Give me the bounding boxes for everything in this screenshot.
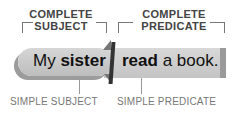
simple-predicate-label: SIMPLE PREDICATE: [117, 96, 216, 107]
predicate-plain: a book.: [158, 51, 219, 70]
complete-subject-line2: SUBJECT: [26, 20, 96, 32]
complete-subject-bracket-left: [22, 22, 33, 33]
simple-subject-label: SIMPLE SUBJECT: [10, 96, 98, 107]
complete-predicate-label: COMPLETE PREDICATE: [134, 8, 214, 32]
simple-predicate-pointer: [141, 78, 142, 94]
predicate-bar-edge: [220, 48, 226, 78]
complete-predicate-line2: PREDICATE: [134, 20, 214, 32]
simple-subject-word: sister: [60, 51, 105, 70]
predicate-text: read a book.: [122, 51, 218, 71]
complete-predicate-bracket-left: [118, 22, 133, 33]
subject-text: My sister: [33, 51, 106, 71]
complete-subject-bracket-right: [96, 22, 107, 33]
complete-predicate-bracket-right: [210, 22, 225, 33]
complete-subject-line1: COMPLETE: [26, 8, 96, 20]
complete-subject-label: COMPLETE SUBJECT: [26, 8, 96, 32]
simple-predicate-word: read: [122, 51, 158, 70]
subject-plain: My: [33, 51, 60, 70]
divider-top-shade: [103, 40, 111, 50]
simple-subject-pointer: [79, 78, 80, 94]
complete-predicate-line1: COMPLETE: [134, 8, 214, 20]
